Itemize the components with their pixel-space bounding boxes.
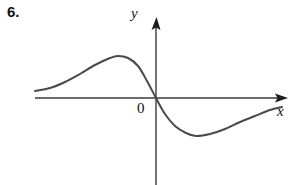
function-curve	[35, 56, 282, 136]
y-axis-label: y	[131, 6, 138, 21]
origin-label: 0	[137, 101, 145, 116]
coordinate-plot	[0, 0, 296, 185]
problem-number: 6.	[7, 4, 19, 19]
x-axis-label: x	[277, 104, 284, 119]
axes-group	[35, 17, 288, 185]
curve-group	[35, 56, 282, 136]
graph-figure: 6. y x 0	[0, 0, 296, 185]
